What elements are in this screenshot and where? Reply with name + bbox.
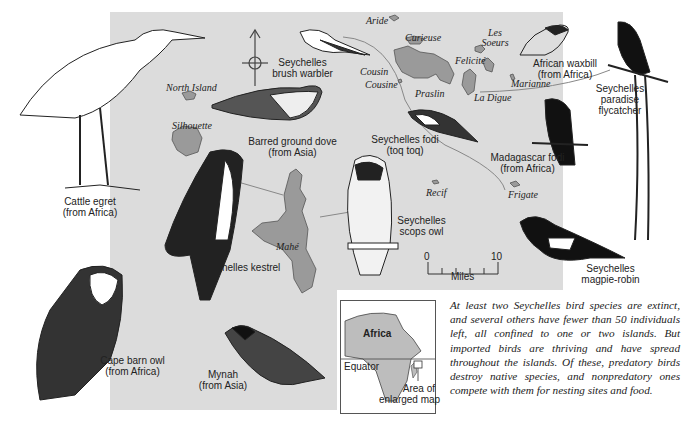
label-cattle-egret: Cattle egret (from Africa) xyxy=(50,196,130,218)
cattle-egret-origin: (from Africa) xyxy=(50,207,130,218)
inset-area-line1: Area of xyxy=(379,383,435,394)
scale-min: 0 xyxy=(424,251,430,262)
madagascar-fodi-origin: (from Africa) xyxy=(485,163,570,174)
label-barred-ground-dove: Barred ground dove (from Asia) xyxy=(245,136,340,158)
mynah-name: Mynah xyxy=(193,369,253,380)
seychelles-fodi-name: Seychelles fodi xyxy=(365,134,445,145)
paradise-flycatcher-line2: paradise xyxy=(590,94,650,105)
magpie-robin-line1: Seychelles xyxy=(573,263,648,274)
paradise-flycatcher-line1: Seychelles xyxy=(590,83,650,94)
cattle-egret-icon xyxy=(20,30,205,190)
label-cape-barn-owl: Cape barn owl (from Africa) xyxy=(95,355,170,377)
barred-ground-dove-origin: (from Asia) xyxy=(245,147,340,158)
label-mynah: Mynah (from Asia) xyxy=(193,369,253,391)
label-scops-owl: Seychelles scops owl xyxy=(394,215,449,237)
cape-barn-owl-icon xyxy=(37,266,123,400)
inset-area-line2: enlarged map xyxy=(379,394,435,405)
seychelles-kestrel-name: Seychelles kestrel xyxy=(190,262,290,273)
african-waxbill-icon xyxy=(520,25,568,55)
mynah-origin: (from Asia) xyxy=(193,380,253,391)
label-paradise-flycatcher: Seychelles paradise flycatcher xyxy=(590,83,650,116)
madagascar-fodi-name: Madagascar fodi xyxy=(485,152,570,163)
african-waxbill-name: African waxbill xyxy=(525,58,605,69)
label-magpie-robin: Seychelles magpie-robin xyxy=(573,263,648,285)
cape-barn-owl-origin: (from Africa) xyxy=(95,366,170,377)
magpie-robin-line2: magpie-robin xyxy=(573,274,648,285)
seychelles-magpie-robin-icon xyxy=(520,217,625,261)
label-african-waxbill: African waxbill (from Africa) xyxy=(525,58,605,80)
scops-owl-line2: scops owl xyxy=(394,226,449,237)
cape-barn-owl-name: Cape barn owl xyxy=(95,355,170,366)
inset-area-label: Area of enlarged map xyxy=(379,383,435,405)
inset-map: Africa Equator Area of enlarged map xyxy=(340,300,436,414)
caption-text: At least two Seychelles bird species are… xyxy=(450,298,680,397)
barred-ground-dove-name: Barred ground dove xyxy=(245,136,340,147)
label-brush-warbler: Seychelles brush warbler xyxy=(265,57,340,79)
african-waxbill-origin: (from Africa) xyxy=(525,69,605,80)
paradise-flycatcher-icon xyxy=(608,22,668,240)
seychelles-scops-owl-icon xyxy=(348,155,399,275)
seychelles-fodi-origin: (toq toq) xyxy=(365,145,445,156)
brush-warbler-icon xyxy=(300,30,370,55)
label-madagascar-fodi: Madagascar fodi (from Africa) xyxy=(485,152,570,174)
scops-owl-line1: Seychelles xyxy=(394,215,449,226)
inset-equator-label: Equator xyxy=(344,361,379,372)
brush-warbler-line2: brush warbler xyxy=(265,68,340,79)
brush-warbler-line1: Seychelles xyxy=(265,57,340,68)
seychelles-kestrel-icon xyxy=(165,150,243,300)
barred-ground-dove-icon xyxy=(212,86,322,120)
cattle-egret-name: Cattle egret xyxy=(50,196,130,207)
label-seychelles-kestrel: Seychelles kestrel xyxy=(190,262,290,273)
paradise-flycatcher-line3: flycatcher xyxy=(590,105,650,116)
inset-africa-label: Africa xyxy=(363,328,391,339)
scale-unit: Miles xyxy=(451,271,474,282)
label-seychelles-fodi: Seychelles fodi (toq toq) xyxy=(365,134,445,156)
scale-max: 10 xyxy=(491,251,502,262)
